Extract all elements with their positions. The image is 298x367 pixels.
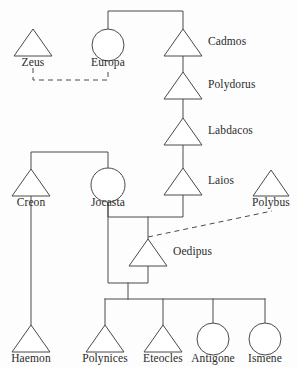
person-label-creon: Creon xyxy=(17,196,46,208)
person-shape-antigone[interactable] xyxy=(197,323,229,355)
person-label-eteocles: Eteocles xyxy=(143,352,183,364)
person-shape-haemon[interactable] xyxy=(12,325,50,352)
person-label-polynices: Polynices xyxy=(82,352,128,364)
person-shape-polydorus[interactable] xyxy=(164,72,202,99)
person-label-haemon: Haemon xyxy=(11,352,51,364)
person-shape-polybus[interactable] xyxy=(253,170,289,196)
person-label-labdacos: Labdacos xyxy=(208,124,253,136)
person-shape-cadmos[interactable] xyxy=(164,29,202,56)
pedigree-graphics xyxy=(0,0,298,367)
person-shape-zeus[interactable] xyxy=(14,29,52,56)
pedigree-diagram: Zeus Europa Cadmos Polydorus Labdacos La… xyxy=(0,0,298,367)
person-label-oedipus: Oedipus xyxy=(173,245,212,257)
sibling-link-creon-jocasta xyxy=(31,152,108,169)
person-label-laios: Laios xyxy=(208,174,234,186)
person-shape-creon[interactable] xyxy=(12,169,50,196)
person-label-zeus: Zeus xyxy=(22,56,45,68)
person-label-polybus: Polybus xyxy=(252,196,290,208)
union-link-jocasta-oedipus xyxy=(108,202,148,283)
person-shape-ismene[interactable] xyxy=(249,323,281,355)
foster-link-polybus-oedipus xyxy=(148,211,272,237)
connector-lines xyxy=(31,11,265,326)
person-shape-eteocles[interactable] xyxy=(144,325,182,352)
person-label-cadmos: Cadmos xyxy=(208,35,246,47)
person-label-ismene: Ismene xyxy=(248,352,282,364)
person-label-jocasta: Jocasta xyxy=(91,196,125,208)
person-label-europa: Europa xyxy=(91,56,125,68)
union-link-europa-cadmos xyxy=(108,11,183,29)
person-shape-laios[interactable] xyxy=(164,168,202,195)
person-shape-oedipus[interactable] xyxy=(129,239,167,266)
union-link-zeus-europa xyxy=(33,68,108,80)
person-label-antigone: Antigone xyxy=(191,352,235,364)
person-shape-labdacos[interactable] xyxy=(164,118,202,145)
person-label-polydorus: Polydorus xyxy=(208,78,256,90)
person-shape-polynices[interactable] xyxy=(86,325,124,352)
